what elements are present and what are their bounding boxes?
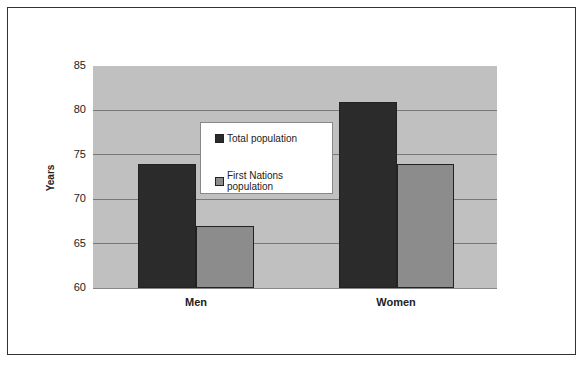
y-tick: 80 [62,103,86,115]
legend-label: Total population [227,133,297,144]
legend: Total population First Nations populatio… [200,122,333,194]
bar-men-first-nations [196,226,254,288]
legend-swatch-icon [215,134,224,143]
y-tick: 60 [62,281,86,293]
y-axis-label: Years [45,165,56,192]
x-label-women: Women [336,296,456,308]
x-label-men: Men [136,296,256,308]
legend-item-total: Total population [215,133,297,144]
legend-swatch-icon [215,177,224,186]
bar-women-first-nations [397,164,454,288]
y-tick: 85 [62,59,86,71]
legend-item-first-nations: First Nations population [215,170,332,192]
gridline [93,110,497,111]
bar-women-total [339,102,397,288]
legend-label: First Nations population [227,170,332,192]
y-tick: 65 [62,237,86,249]
bar-men-total [138,164,196,288]
y-tick: 70 [62,192,86,204]
y-tick: 75 [62,148,86,160]
